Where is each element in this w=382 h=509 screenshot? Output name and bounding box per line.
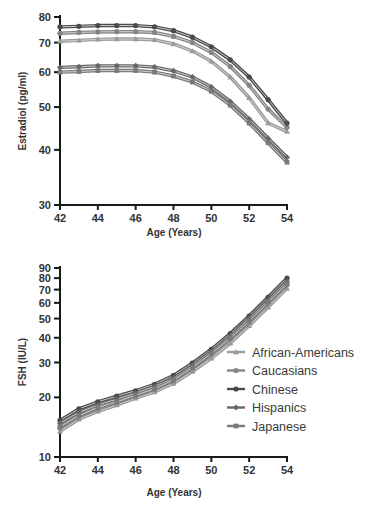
legend-label: Hispanics [252, 401, 306, 415]
data-point [76, 24, 81, 29]
fsh-x-tick-label: 50 [205, 464, 217, 476]
fsh-y-tick-label: 30 [39, 357, 51, 369]
fsh-y-tick-label: 70 [39, 284, 51, 296]
legend-marker-icon [233, 386, 238, 391]
data-point [77, 413, 82, 418]
data-point [284, 120, 289, 125]
data-point [228, 57, 233, 62]
data-point [265, 106, 270, 111]
estradiol-y-tick-label: 50 [39, 101, 51, 113]
data-point [114, 23, 119, 28]
data-point [266, 140, 271, 145]
data-point [190, 365, 195, 370]
fsh-x-tick-label: 52 [243, 464, 255, 476]
legend-item-caucasians: Caucasians [227, 364, 317, 378]
data-point [152, 70, 157, 75]
data-point [152, 386, 157, 391]
data-point [95, 405, 100, 410]
estradiol-y-tick-label: 80 [39, 11, 51, 23]
legend-item-chinese: Chinese [227, 383, 298, 397]
data-point [171, 28, 176, 33]
data-point [95, 63, 101, 69]
estradiol-x-tick-label: 52 [243, 212, 255, 224]
data-point [57, 64, 63, 70]
data-point [58, 70, 63, 75]
estradiol-y-axis-title: Estradiol (pg/ml) [17, 72, 28, 151]
data-point [133, 393, 138, 398]
data-point [209, 89, 214, 94]
estradiol-y-tick-label: 60 [39, 66, 51, 78]
data-point [247, 319, 252, 324]
data-point [247, 83, 252, 88]
estradiol-series [57, 23, 290, 165]
series-line-highlight [60, 39, 287, 132]
fsh-y-tick-label: 20 [39, 391, 51, 403]
data-point [114, 29, 119, 34]
legend-label: Japanese [252, 420, 306, 434]
estradiol-y-tick-label: 30 [39, 199, 51, 211]
fsh-x-axis-title: Age (Years) [146, 487, 201, 498]
fsh-x-tick-label: 54 [281, 464, 294, 476]
estradiol-x-tick-label: 46 [130, 212, 142, 224]
data-point [171, 378, 176, 383]
legend-label: Caucasians [252, 364, 317, 378]
data-point [58, 424, 63, 429]
estradiol-x-axis-title: Age (Years) [146, 227, 201, 238]
data-point [77, 69, 82, 74]
data-point [76, 64, 82, 70]
fsh-y-tick-label: 10 [39, 451, 51, 463]
data-point [285, 281, 290, 286]
estradiol-chart: Estradiol (pg/ml) Age (Years) 4244464850… [17, 11, 294, 238]
data-point [285, 160, 290, 165]
data-point [95, 23, 100, 28]
data-point [133, 23, 138, 28]
data-point [228, 103, 233, 108]
estradiol-x-tick-label: 48 [167, 212, 179, 224]
fsh-chart: FSH (IU/L) Age (Years) 42444648505254102… [17, 262, 354, 498]
fsh-x-tick-label: 44 [92, 464, 105, 476]
data-point [247, 121, 252, 126]
data-point [95, 29, 100, 34]
data-point [133, 29, 138, 34]
legend-item-japanese: Japanese [227, 420, 306, 434]
series-line-highlight [60, 71, 287, 163]
data-point [133, 68, 138, 73]
chart-figure: Estradiol (pg/ml) Age (Years) 4244464850… [0, 0, 382, 509]
series-line [60, 39, 287, 132]
data-point [114, 399, 119, 404]
estradiol-x-tick-label: 44 [92, 212, 105, 224]
data-point [190, 80, 195, 85]
data-point [114, 68, 119, 73]
data-point [228, 336, 233, 341]
data-point [247, 74, 252, 79]
data-point [209, 351, 214, 356]
data-point [190, 40, 195, 45]
estradiol-x-tick-label: 54 [281, 212, 294, 224]
legend-marker-icon [233, 405, 239, 411]
fsh-y-tick-label: 50 [39, 313, 51, 325]
series-line [60, 71, 287, 163]
fsh-y-tick-label: 90 [39, 262, 51, 274]
data-point [57, 31, 62, 36]
data-point [171, 34, 176, 39]
fsh-y-axis-title: FSH (IU/L) [17, 338, 28, 386]
legend-marker-icon [233, 368, 238, 373]
data-point [114, 63, 120, 69]
data-point [265, 97, 270, 102]
legend-label: African-Americans [252, 346, 354, 360]
fsh-x-tick-label: 48 [167, 464, 179, 476]
data-point [190, 35, 195, 40]
fsh-y-tick-label: 40 [39, 332, 51, 344]
fsh-x-tick-label: 42 [54, 464, 66, 476]
data-point [152, 24, 157, 29]
data-point [209, 44, 214, 49]
data-point [95, 68, 100, 73]
data-point [133, 63, 139, 69]
legend-item-hispanics: Hispanics [227, 401, 306, 415]
data-point [57, 24, 62, 29]
legend-item-african-americans: African-Americans [227, 346, 354, 360]
estradiol-y-tick-label: 40 [39, 144, 51, 156]
data-point [266, 300, 271, 305]
fsh-x-tick-label: 46 [130, 464, 142, 476]
legend-marker-icon [234, 424, 239, 429]
